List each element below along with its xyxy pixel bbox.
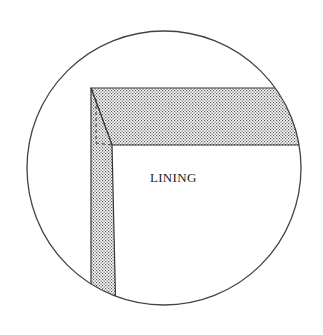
detail-circle: [27, 31, 301, 305]
lining-label: LINING: [150, 170, 197, 186]
mitered-corner-diagram: [0, 0, 323, 335]
horizontal-hem-band: [91, 88, 310, 145]
